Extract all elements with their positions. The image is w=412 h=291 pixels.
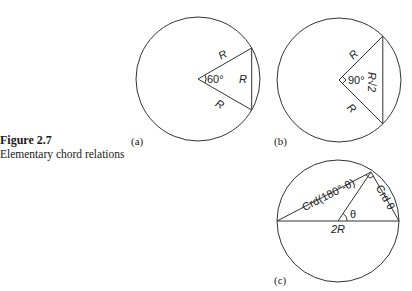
sublabel-b: (b) <box>274 135 287 148</box>
label-theta-c: θ <box>350 208 356 220</box>
label-diameter-c: 2R <box>330 223 345 235</box>
right-angle-mark-b <box>343 77 347 84</box>
label-chord-a: R <box>239 73 247 85</box>
label-angle-a: 60° <box>207 73 224 85</box>
label-angle-b: 90° <box>348 74 365 86</box>
label-radius-a-upper: R <box>216 47 229 61</box>
angle-arc-a <box>205 75 206 83</box>
chord-diagram: R 60° R R (a) R 90° R√2 R (b) Crd(180°-θ… <box>0 0 412 291</box>
label-chord-b: R√2 <box>366 72 378 92</box>
label-radius-b-upper: R <box>346 47 360 61</box>
label-long-chord-c: Crd(180°-θ) <box>300 176 357 213</box>
sublabel-a: (a) <box>131 135 144 148</box>
theta-arc-c <box>343 214 347 222</box>
sublabel-c: (c) <box>274 274 287 287</box>
label-radius-a-lower: R <box>214 97 227 111</box>
label-radius-b-lower: R <box>345 101 359 115</box>
